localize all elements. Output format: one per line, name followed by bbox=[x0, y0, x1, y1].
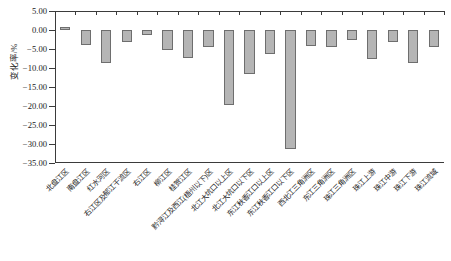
y-tick-label: 0.00 bbox=[32, 25, 47, 35]
y-tick-label: −35.00 bbox=[23, 158, 47, 168]
bar bbox=[285, 30, 295, 149]
bar bbox=[408, 30, 418, 63]
x-tick bbox=[444, 11, 445, 15]
y-tick bbox=[49, 163, 55, 164]
y-axis-title: 变化率/% bbox=[7, 27, 19, 97]
y-tick-label: −15.00 bbox=[23, 82, 47, 92]
bar bbox=[326, 30, 336, 47]
bar bbox=[224, 30, 234, 105]
y-tick-label: −20.00 bbox=[23, 101, 47, 111]
bar bbox=[367, 30, 377, 59]
y-tick-label: −30.00 bbox=[23, 139, 47, 149]
bar-series bbox=[55, 11, 444, 163]
bar bbox=[183, 30, 193, 58]
bar bbox=[347, 30, 357, 40]
bar bbox=[101, 30, 111, 63]
bar bbox=[306, 30, 316, 46]
plot-area: 5.000.00−5.00−10.00−15.00−20.00−25.00−30… bbox=[55, 11, 444, 163]
bar bbox=[60, 27, 70, 30]
bar bbox=[244, 30, 254, 74]
y-tick-label: −5.00 bbox=[27, 44, 47, 54]
bar bbox=[122, 30, 132, 42]
y-tick-label: −10.00 bbox=[23, 63, 47, 73]
y-tick-label: 5.00 bbox=[32, 6, 47, 16]
x-axis-labels: 北盘江区南盘江区红水河区右江区及郁江干流区右江区柳江区桂贺江区黔浔江及西江(梧州… bbox=[55, 166, 444, 261]
bar bbox=[203, 30, 213, 47]
bar-chart: 变化率/% 5.000.00−5.00−10.00−15.00−20.00−25… bbox=[0, 0, 451, 261]
y-tick-label: −25.00 bbox=[23, 120, 47, 130]
bar bbox=[429, 30, 439, 47]
bar bbox=[265, 30, 275, 54]
bar bbox=[142, 30, 152, 35]
bar bbox=[388, 30, 398, 42]
bar bbox=[81, 30, 91, 45]
bar bbox=[162, 30, 172, 50]
